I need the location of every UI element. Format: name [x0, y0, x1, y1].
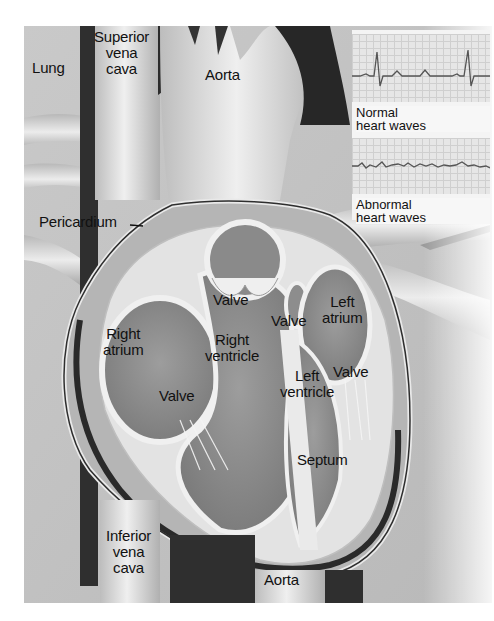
abnormal-ekg-grid — [352, 138, 490, 194]
normal-waves-caption: Normal heart waves — [356, 106, 490, 132]
label-lung: Lung — [32, 60, 65, 76]
label-right-atrium: Right atrium — [103, 326, 143, 358]
label-valve-mitral: Valve — [333, 364, 368, 380]
label-left-atrium: Left atrium — [322, 294, 362, 326]
label-aorta-top: Aorta — [205, 67, 240, 83]
abnormal-waves-caption: Abnormal heart waves — [356, 198, 490, 224]
label-right-ventricle: Right ventricle — [205, 332, 259, 364]
label-inferior-vena-cava: Inferior vena cava — [106, 528, 151, 576]
heart-wave-inset: Normal heart waves Abnormal heart waves — [352, 30, 490, 220]
label-valve-pulmonary: Valve — [213, 292, 248, 308]
label-valve-tricuspid: Valve — [159, 388, 194, 404]
abnormal-ekg-trace — [352, 138, 490, 194]
label-aorta-bottom: Aorta — [264, 572, 299, 588]
label-superior-vena-cava: Superior vena cava — [94, 29, 149, 77]
label-valve-aortic: Valve — [271, 313, 306, 329]
heart-diagram: Normal heart waves Abnormal heart waves … — [0, 0, 494, 621]
label-septum: Septum — [297, 452, 348, 468]
label-pericardium: Pericardium — [39, 214, 117, 230]
label-left-ventricle: Left ventricle — [280, 368, 334, 400]
normal-ekg-grid — [352, 34, 490, 102]
normal-ekg-trace — [352, 34, 490, 102]
